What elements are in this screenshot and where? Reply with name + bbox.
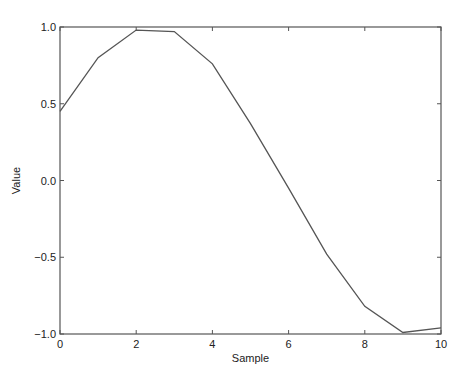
y-tick-label: −1.0: [34, 328, 56, 340]
y-tick-label: 1.0: [41, 21, 56, 33]
y-tick-label: 0.0: [41, 175, 56, 187]
x-tick-label: 4: [209, 338, 215, 350]
y-tick-label: −0.5: [34, 251, 56, 263]
line-chart: 02468101.00.50.0−0.5−1.0SampleValue: [0, 0, 466, 380]
x-tick-label: 6: [286, 338, 292, 350]
y-tick-label: 0.5: [41, 98, 56, 110]
x-tick-label: 0: [57, 338, 63, 350]
x-tick-label: 2: [133, 338, 139, 350]
y-axis-label: Value: [10, 167, 22, 194]
plot-frame: [60, 27, 441, 334]
x-axis-label: Sample: [232, 352, 269, 364]
x-tick-label: 8: [362, 338, 368, 350]
x-tick-label: 10: [435, 338, 447, 350]
data-line: [60, 30, 441, 332]
